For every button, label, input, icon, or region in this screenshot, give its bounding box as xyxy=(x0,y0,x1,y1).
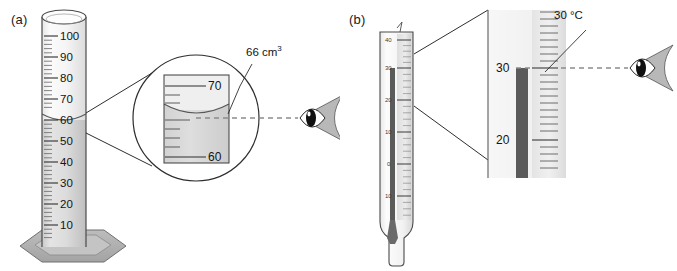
thermometer-tick-label-10: 10 xyxy=(385,129,392,135)
figure-measurement-reading: (a) xyxy=(0,0,677,271)
thermometer-magnified-view xyxy=(488,10,566,178)
cylinder-tick-label-30: 30 xyxy=(60,178,73,190)
cylinder-tick-label-60: 60 xyxy=(60,115,73,127)
eye-icon xyxy=(300,95,340,141)
inset-label-60: 60 xyxy=(208,151,221,163)
callout-temperature-reading: 30 °C xyxy=(554,10,583,22)
thermometer-tick-label-20: 20 xyxy=(385,97,392,103)
cylinder-tick-label-100: 100 xyxy=(60,31,79,43)
callout-volume-unit: cm xyxy=(262,46,277,58)
eye-icon xyxy=(630,45,673,91)
inset-label-70: 70 xyxy=(208,80,221,92)
magnified-label-30: 30 xyxy=(496,62,509,74)
panel-a-graphics xyxy=(0,0,340,271)
thermometer-scale-strip xyxy=(397,34,411,220)
cylinder-tick-label-80: 80 xyxy=(60,73,73,85)
magnified-label-20: 20 xyxy=(496,134,509,146)
magnifier-leader-lines-b xyxy=(414,10,488,160)
thermometer-tick-label-40: 40 xyxy=(385,37,392,43)
cylinder-tick-label-90: 90 xyxy=(60,52,73,64)
magnified-mercury-column xyxy=(516,68,528,178)
cylinder-tick-label-50: 50 xyxy=(60,136,73,148)
thermometer-tick-label-0: 0 xyxy=(387,161,390,167)
panel-a-measuring-cylinder: (a) xyxy=(0,0,340,271)
callout-volume-value: 66 xyxy=(246,46,259,58)
cylinder-tick-label-70: 70 xyxy=(60,94,73,106)
panel-b-thermometer: (b) xyxy=(340,0,677,271)
cylinder-tick-label-40: 40 xyxy=(60,157,73,169)
thermometer-tick-label-30: 30 xyxy=(385,65,392,71)
callout-volume-exponent: 3 xyxy=(277,44,281,53)
cylinder-tick-label-10: 10 xyxy=(60,220,73,232)
magnified-scale-strip xyxy=(532,10,566,178)
thermometer-tick-label-neg10: 10 xyxy=(385,193,392,199)
cylinder-tick-label-20: 20 xyxy=(60,199,73,211)
callout-volume-reading: 66 cm3 xyxy=(246,47,282,59)
